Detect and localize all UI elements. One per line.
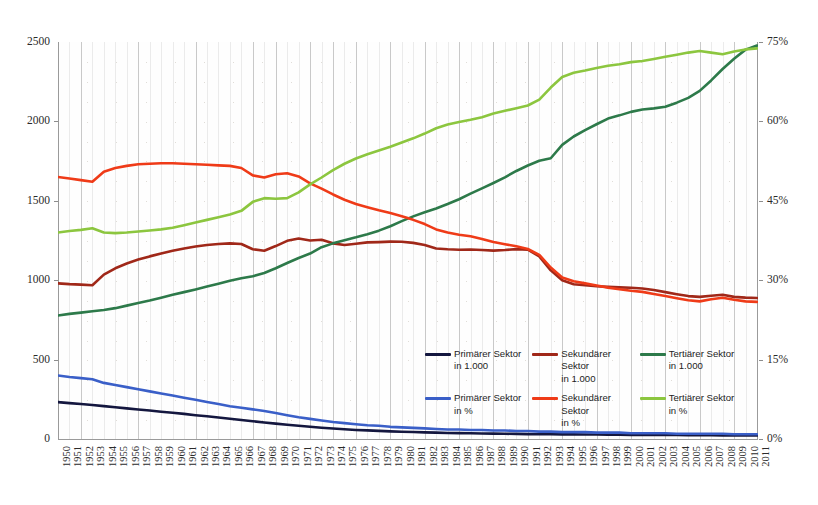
- x-tick-1993: 1993: [555, 446, 566, 467]
- series-line-2: [58, 45, 757, 315]
- x-tick-1981: 1981: [417, 446, 428, 467]
- x-tick-2005: 2005: [692, 446, 703, 467]
- x-tick-1995: 1995: [578, 446, 589, 467]
- y-tick-mark-right: [759, 360, 763, 361]
- x-tick-1979: 1979: [394, 446, 405, 467]
- legend-swatch-icon: [425, 353, 451, 356]
- chart-container: 05001000150020002500 0%15%30%45%60%75% 1…: [0, 0, 818, 505]
- x-tick-2006: 2006: [704, 446, 715, 467]
- y-tick-right-0%: 0%: [767, 433, 811, 445]
- x-tick-1951: 1951: [73, 446, 84, 467]
- x-tick-1997: 1997: [601, 446, 612, 467]
- y-tick-right-30%: 30%: [767, 274, 811, 286]
- x-tick-1989: 1989: [509, 446, 520, 467]
- y-tick-mark-right: [759, 280, 763, 281]
- x-tick-1955: 1955: [119, 446, 130, 467]
- x-tick-1953: 1953: [96, 446, 107, 467]
- x-tick-1969: 1969: [280, 446, 291, 467]
- x-tick-1967: 1967: [257, 446, 268, 467]
- x-tick-1977: 1977: [371, 446, 382, 467]
- x-tick-1987: 1987: [486, 446, 497, 467]
- legend-swatch-icon: [640, 353, 666, 356]
- x-tick-1980: 1980: [406, 446, 417, 467]
- x-tick-1985: 1985: [463, 446, 474, 467]
- y-tick-right-75%: 75%: [767, 36, 811, 48]
- y-tick-left-1000: 1000: [4, 274, 50, 286]
- legend-item[interactable]: Primärer Sektor in %: [425, 392, 528, 429]
- series-line-1: [58, 239, 757, 298]
- y-tick-mark-right: [759, 439, 763, 440]
- x-tick-1964: 1964: [222, 446, 233, 467]
- y-tick-left-0: 0: [4, 433, 50, 445]
- legend-swatch-icon: [640, 397, 666, 400]
- y-tick-mark-left: [54, 280, 58, 281]
- chart-legend: Primärer Sektor in 1.000Sekundärer Sekto…: [425, 348, 743, 412]
- legend-label: Sekundärer Sektor in 1.000: [561, 348, 635, 385]
- x-tick-1972: 1972: [314, 446, 325, 467]
- legend-label: Tertiärer Sektor in %: [669, 392, 735, 417]
- x-tick-1975: 1975: [348, 446, 359, 467]
- x-tick-1999: 1999: [623, 446, 634, 467]
- x-tick-1952: 1952: [85, 446, 96, 467]
- legend-label: Tertiärer Sektor in 1.000: [669, 348, 735, 373]
- x-tick-1968: 1968: [268, 446, 279, 467]
- x-tick-1954: 1954: [108, 446, 119, 467]
- x-tick-1961: 1961: [188, 446, 199, 467]
- legend-swatch-icon: [532, 397, 558, 400]
- legend-swatch-icon: [425, 397, 451, 400]
- legend-item[interactable]: Tertiärer Sektor in %: [640, 392, 743, 429]
- legend-item[interactable]: Primärer Sektor in 1.000: [425, 348, 528, 385]
- y-tick-mark-right: [759, 201, 763, 202]
- x-tick-2003: 2003: [669, 446, 680, 467]
- legend-item[interactable]: Sekundärer Sektor in %: [532, 392, 635, 429]
- x-tick-1998: 1998: [612, 446, 623, 467]
- x-tick-1957: 1957: [142, 446, 153, 467]
- legend-item[interactable]: Tertiärer Sektor in 1.000: [640, 348, 743, 385]
- x-tick-1992: 1992: [543, 446, 554, 467]
- x-tick-1971: 1971: [303, 446, 314, 467]
- y-tick-left-500: 500: [4, 354, 50, 366]
- x-tick-1991: 1991: [532, 446, 543, 467]
- y-tick-left-2000: 2000: [4, 115, 50, 127]
- x-tick-1973: 1973: [326, 446, 337, 467]
- x-tick-1983: 1983: [440, 446, 451, 467]
- y-tick-mark-right: [759, 121, 763, 122]
- x-tick-1984: 1984: [452, 446, 463, 467]
- x-tick-2007: 2007: [715, 446, 726, 467]
- y-tick-mark-right: [759, 42, 763, 43]
- x-tick-1970: 1970: [291, 446, 302, 467]
- x-tick-1950: 1950: [62, 446, 73, 467]
- x-tick-1960: 1960: [177, 446, 188, 467]
- y-tick-right-45%: 45%: [767, 195, 811, 207]
- x-tick-1962: 1962: [200, 446, 211, 467]
- x-tick-1996: 1996: [589, 446, 600, 467]
- legend-label: Primärer Sektor in 1.000: [454, 348, 521, 373]
- x-tick-1982: 1982: [429, 446, 440, 467]
- x-tick-1966: 1966: [245, 446, 256, 467]
- x-tick-1956: 1956: [131, 446, 142, 467]
- legend-label: Sekundärer Sektor in %: [561, 392, 635, 429]
- x-tick-1958: 1958: [154, 446, 165, 467]
- x-tick-1959: 1959: [165, 446, 176, 467]
- x-tick-2011: 2011: [761, 446, 772, 467]
- series-line-4: [58, 163, 757, 302]
- x-tick-1976: 1976: [360, 446, 371, 467]
- x-tick-1990: 1990: [520, 446, 531, 467]
- x-tick-1978: 1978: [383, 446, 394, 467]
- x-tick-1963: 1963: [211, 446, 222, 467]
- y-tick-right-15%: 15%: [767, 354, 811, 366]
- x-tick-2004: 2004: [681, 446, 692, 467]
- legend-swatch-icon: [532, 353, 558, 356]
- legend-item[interactable]: Sekundärer Sektor in 1.000: [532, 348, 635, 385]
- x-tick-1965: 1965: [234, 446, 245, 467]
- x-tick-1994: 1994: [566, 446, 577, 467]
- y-tick-mark-left: [54, 360, 58, 361]
- x-tick-2010: 2010: [750, 446, 761, 467]
- x-tick-2001: 2001: [646, 446, 657, 467]
- x-tick-1974: 1974: [337, 446, 348, 467]
- x-tick-2008: 2008: [727, 446, 738, 467]
- x-tick-1986: 1986: [475, 446, 486, 467]
- x-tick-1988: 1988: [497, 446, 508, 467]
- y-tick-mark-left: [54, 201, 58, 202]
- y-tick-left-1500: 1500: [4, 195, 50, 207]
